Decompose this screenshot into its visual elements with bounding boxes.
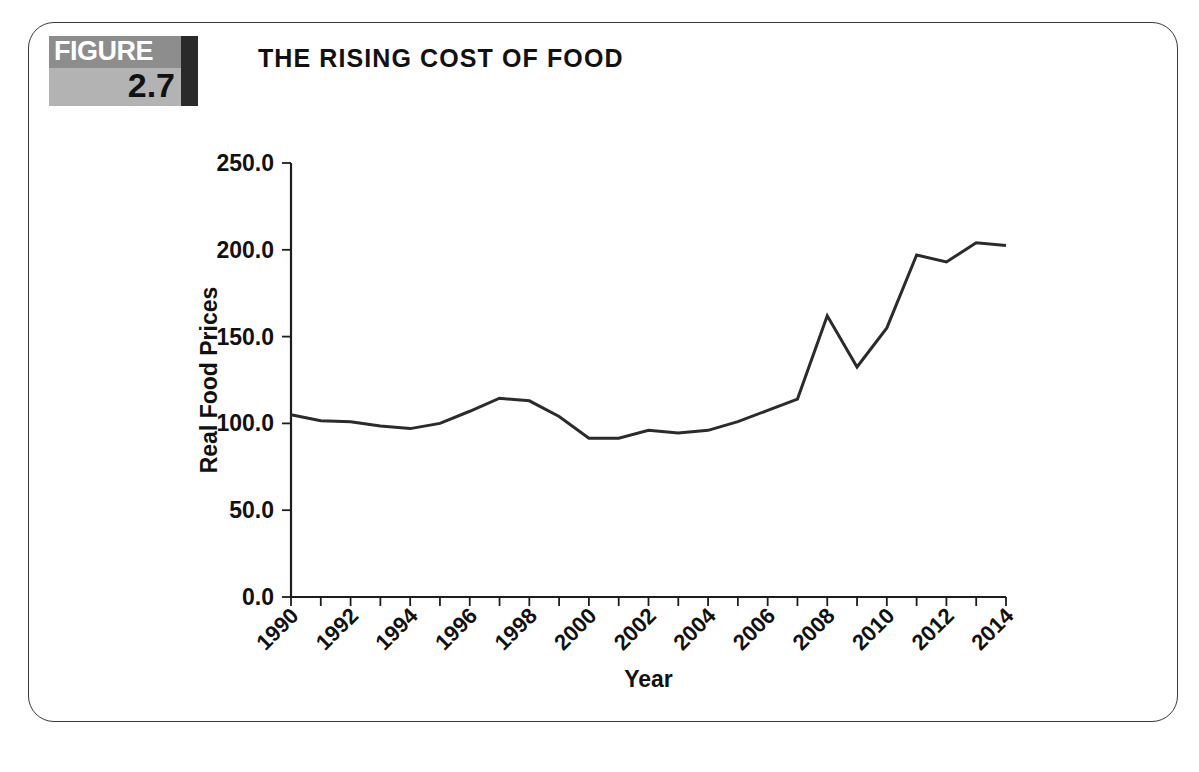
- figure-badge-number: 2.7: [49, 64, 175, 106]
- page-title: THE RISING COST OF FOOD: [258, 44, 624, 73]
- figure-frame: [28, 22, 1178, 722]
- figure-badge-right-bar: [181, 36, 198, 106]
- figure-badge: FIGURE 2.7: [49, 36, 199, 106]
- bottom-caption: [14, 752, 654, 766]
